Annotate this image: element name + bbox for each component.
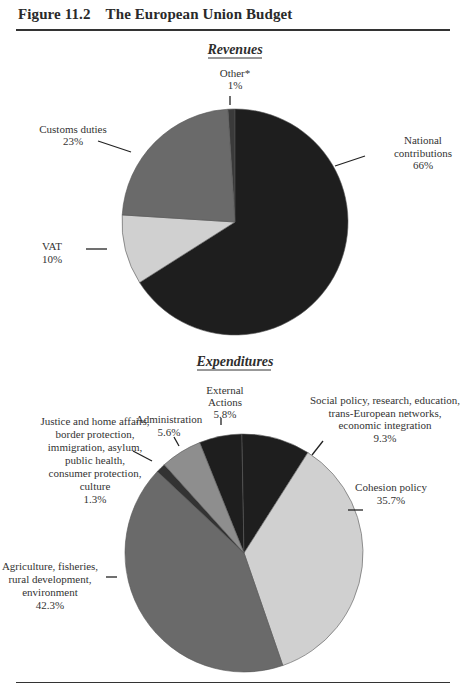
- slice-label-line: Agriculture, fisheries,: [2, 560, 98, 572]
- slice-label-line: National: [404, 134, 442, 146]
- slice-label-line: 35.7%: [377, 494, 405, 506]
- slice-label-line: Justice and home affairs,: [40, 415, 149, 427]
- slice-label-external-actions: ExternalActions5.8%: [206, 384, 243, 420]
- slice-label-line: consumer protection,: [49, 467, 142, 479]
- leader-line-administration: [174, 437, 179, 446]
- slice-label-line: Administration: [136, 413, 203, 425]
- revenues-title: Revenues: [206, 42, 263, 57]
- slice-label-justice-and-home-affairs-border-protecti: Justice and home affairs,border protecti…: [40, 415, 149, 505]
- slice-label-national-contributions: Nationalcontributions66%: [394, 134, 452, 171]
- revenues-pie-chart: Revenues Other*1%Nationalcontributions66…: [39, 42, 452, 335]
- slice-label-line: External: [206, 384, 243, 396]
- slice-label-line: 10%: [42, 253, 62, 265]
- slice-label-customs-duties: Customs duties23%: [39, 123, 107, 147]
- slice-label-line: public health,: [65, 454, 125, 466]
- slice-label-line: Cohesion policy: [355, 481, 427, 493]
- slice-label-line: environment: [22, 586, 78, 598]
- slice-label-line: Other*: [220, 67, 251, 79]
- slice-label-line: 42.3%: [36, 599, 64, 611]
- slice-label-line: Social policy, research, education,: [310, 394, 460, 406]
- slice-label-cohesion-policy: Cohesion policy35.7%: [355, 481, 427, 506]
- slice-label-vat: VAT10%: [42, 240, 62, 265]
- pie-slice-customs-duties: [122, 109, 235, 222]
- slice-label-line: VAT: [42, 240, 62, 252]
- slice-label-line: culture: [80, 480, 111, 492]
- leader-line-national-contributions: [335, 156, 365, 166]
- leader-line-social-policy-research-education-trans-e: [312, 441, 323, 455]
- slice-label-line: economic integration: [338, 419, 432, 431]
- slice-label-line: 23%: [63, 135, 83, 147]
- leader-line-justice-and-home-affairs-border-protecti: [133, 451, 152, 461]
- slice-label-line: 5.8%: [214, 408, 237, 420]
- slice-label-line: border protection,: [56, 428, 135, 440]
- slice-label-other: Other*1%: [220, 67, 251, 91]
- slice-label-line: 9.3%: [374, 432, 397, 444]
- slice-label-social-policy-research-education-trans-e: Social policy, research, education,trans…: [310, 394, 460, 444]
- leader-line-customs-duties: [98, 141, 131, 152]
- slice-label-line: trans-European networks,: [328, 407, 441, 419]
- slice-label-line: 1.3%: [84, 493, 107, 505]
- slice-label-line: immigration, asylum,: [48, 441, 143, 453]
- slice-label-line: 1%: [228, 79, 243, 91]
- slice-label-line: rural development,: [8, 573, 91, 585]
- slice-label-line: Customs duties: [39, 123, 107, 135]
- slice-label-agriculture-fisheries-rural-development-: Agriculture, fisheries,rural development…: [2, 560, 98, 611]
- slice-label-line: contributions: [394, 147, 452, 159]
- budget-pie-charts: Revenues Other*1%Nationalcontributions66…: [0, 0, 471, 688]
- expenditures-title: Expenditures: [195, 354, 274, 369]
- expenditures-pie-chart: Expenditures ExternalActions5.8%Social p…: [2, 354, 460, 672]
- slice-label-line: Actions: [208, 396, 242, 408]
- slice-label-line: 5.6%: [158, 426, 181, 438]
- slice-label-line: 66%: [413, 159, 433, 171]
